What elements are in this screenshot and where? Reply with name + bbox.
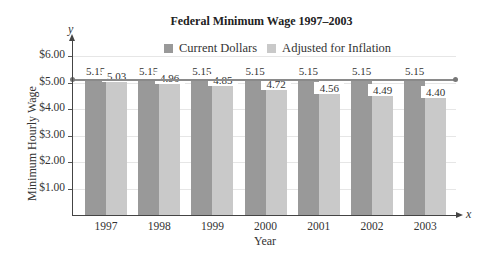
y-tick-label: $6.00 [20,48,65,60]
x-tick-label: 1997 [85,220,127,232]
bar-value-label: 5.15 [400,65,430,77]
bar-current-dollars-2002 [351,79,372,215]
y-axis-title: Minimum Hourly Wage [25,84,40,204]
legend-item-adjusted: Adjusted for Inflation [267,41,391,56]
bar-value-label: 4.56 [314,82,344,94]
gridline [73,56,456,57]
bar-current-dollars-2000 [245,79,266,215]
bar-value-label: 5.15 [240,65,270,77]
x-axis [72,215,457,216]
bar-value-label: 4.40 [421,86,451,98]
x-axis-arrow-icon [456,212,463,218]
bar-current-dollars-1998 [138,79,159,215]
x-tick-label: 1998 [138,220,180,232]
x-tick-label: 1999 [191,220,233,232]
bar-value-label: 4.49 [368,84,398,96]
bar-adjusted-2000 [266,90,287,215]
legend-label-current-dollars: Current Dollars [179,41,257,56]
bar-adjusted-2001 [319,94,340,215]
x-tick-label: 2001 [298,220,340,232]
x-tick-label: 2002 [351,220,393,232]
reference-line [72,79,455,81]
bar-current-dollars-2003 [404,79,425,215]
bar-current-dollars-1997 [85,79,106,215]
chart-area: Federal Minimum Wage 1997–2003 Current D… [0,0,493,259]
chart-title: Federal Minimum Wage 1997–2003 [0,14,493,29]
legend: Current Dollars Adjusted for Inflation [164,40,401,56]
x-axis-title: Year [240,234,290,249]
bar-adjusted-1999 [212,86,233,215]
reference-line-end-dot [453,77,458,82]
x-axis-variable: x [466,207,471,222]
legend-swatch-current-dollars [164,44,173,53]
bar-current-dollars-1999 [191,79,212,215]
legend-item-current-dollars: Current Dollars [164,41,257,56]
bar-adjusted-2003 [425,98,446,215]
bar-value-label: 5.15 [347,65,377,77]
bar-adjusted-2002 [372,96,393,215]
legend-label-adjusted: Adjusted for Inflation [282,41,391,56]
y-axis [72,38,73,216]
bar-value-label: 5.15 [293,65,323,77]
legend-swatch-adjusted [267,44,276,53]
x-tick-label: 2003 [404,220,446,232]
y-axis-variable: y [68,22,73,37]
bar-adjusted-1997 [106,82,127,215]
x-tick-label: 2000 [245,220,287,232]
bar-current-dollars-2001 [298,79,319,215]
bar-value-label: 4.96 [155,72,185,84]
bar-adjusted-1998 [159,84,180,215]
